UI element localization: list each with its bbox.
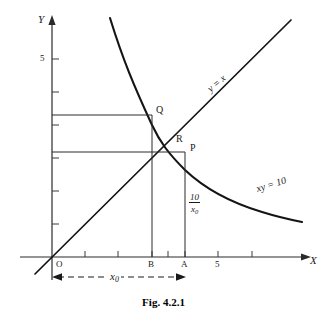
x-tick-label-A: A	[181, 260, 188, 269]
x0-arrowhead-left	[52, 273, 62, 280]
origin-label: O	[56, 260, 63, 269]
y-tick-label-5: 5	[40, 54, 45, 63]
point-label-Q: Q	[156, 105, 163, 115]
figure-container: Y X O 5 5 B A Q R P y = x xy = 10 10 x0 …	[0, 0, 327, 316]
fraction-10-over-x0: 10 x0	[189, 192, 200, 215]
point-label-R: R	[176, 134, 183, 144]
fraction-denominator-subscript: 0	[195, 208, 198, 215]
x-tick-label-5: 5	[215, 260, 220, 269]
fraction-denominator: x0	[189, 203, 200, 215]
x-tick-label-B: B	[148, 260, 154, 269]
x-axis-ticks	[85, 251, 252, 257]
fraction-numerator: 10	[189, 192, 200, 203]
figure-caption: Fig. 4.2.1	[0, 296, 327, 308]
point-label-P: P	[190, 143, 196, 153]
x0-arrowhead-right	[176, 273, 186, 280]
x-axis-label: X	[310, 255, 317, 266]
y-axis-arrowhead	[48, 15, 55, 25]
y-axis-label: Y	[38, 14, 44, 25]
construction-lines	[52, 115, 185, 257]
y-axis-ticks	[52, 59, 59, 224]
x0-subscript: 0	[115, 275, 119, 284]
coordinate-plot	[0, 0, 327, 316]
hyperbola-curve-xy-equals-10	[110, 18, 302, 222]
x0-measure-label: x0	[108, 270, 121, 284]
line-y-equals-x	[35, 20, 291, 274]
